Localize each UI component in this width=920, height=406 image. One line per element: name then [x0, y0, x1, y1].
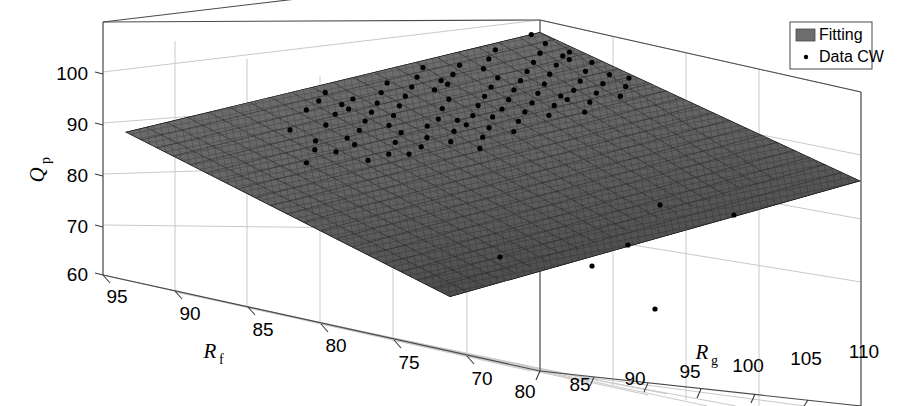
data-point	[470, 113, 475, 118]
data-point	[554, 62, 559, 67]
data-point	[626, 75, 631, 80]
data-point	[487, 125, 492, 130]
data-point	[419, 144, 424, 149]
data-point	[481, 66, 486, 71]
data-point	[543, 41, 548, 46]
data-point	[529, 100, 534, 105]
data-point	[464, 122, 469, 127]
data-point	[522, 109, 527, 114]
data-point	[420, 65, 425, 70]
data-point	[451, 129, 456, 134]
data-point	[450, 72, 455, 77]
z-tick-4: 60	[67, 264, 88, 285]
data-point	[477, 146, 482, 151]
data-point	[516, 119, 521, 124]
x-axis-title: R g	[695, 340, 718, 368]
data-point	[352, 142, 357, 147]
data-point	[313, 138, 318, 143]
data-point	[386, 151, 391, 156]
y-axis-title-sub: f	[219, 352, 224, 367]
data-point	[560, 53, 565, 58]
data-point	[493, 47, 498, 52]
data-point	[287, 127, 292, 132]
y-axis-title-main: R	[203, 339, 217, 363]
data-point-outlier	[497, 254, 502, 259]
data-point	[446, 97, 451, 102]
data-point	[567, 49, 572, 54]
y-tick-2: 85	[252, 319, 273, 340]
data-point	[397, 103, 402, 108]
legend-label-data-cw: Data CW	[819, 48, 885, 65]
data-point	[489, 84, 494, 89]
data-point	[363, 119, 368, 124]
data-point	[480, 135, 485, 140]
x-axis-title-main: R	[695, 340, 709, 364]
x-tick-1: 85	[569, 374, 590, 395]
data-point	[594, 90, 599, 95]
z-axis-tick-labels: 100 90 80 70 60	[56, 63, 88, 285]
data-point	[457, 63, 462, 68]
data-point	[587, 100, 592, 105]
y-tick-1: 90	[179, 303, 200, 324]
data-point-outlier	[731, 212, 736, 217]
data-point	[425, 123, 430, 128]
x-tick-4: 100	[732, 355, 764, 376]
data-point	[567, 57, 572, 62]
data-point	[304, 107, 309, 112]
z-tick-1: 90	[67, 114, 88, 135]
data-point	[323, 122, 328, 127]
data-point	[511, 129, 516, 134]
z-axis-title: Q p	[25, 157, 53, 183]
data-point	[316, 98, 321, 103]
data-point	[323, 90, 328, 95]
data-point	[565, 97, 570, 102]
legend[interactable]: Fitting Data CW	[790, 22, 885, 69]
data-point	[547, 72, 552, 77]
z-tick-3: 70	[67, 216, 88, 237]
data-point	[546, 113, 551, 118]
y-tick-3: 80	[325, 335, 346, 356]
data-point	[393, 140, 398, 145]
z-axis-title-sub: p	[38, 157, 53, 164]
data-point	[424, 135, 429, 140]
data-point	[531, 60, 536, 65]
data-point	[386, 123, 391, 128]
data-point-outlier	[652, 306, 657, 311]
data-point	[482, 94, 487, 99]
data-point	[415, 75, 420, 80]
data-point	[357, 128, 362, 133]
y-axis-tick-labels: 95 90 85 80 75 70	[106, 286, 492, 389]
data-point	[436, 117, 441, 122]
data-point	[618, 94, 623, 99]
x-tick-3: 95	[679, 361, 700, 382]
y-axis-title: R f	[203, 339, 224, 367]
data-point	[537, 51, 542, 56]
data-point	[518, 78, 523, 83]
fitting-surface	[125, 32, 861, 297]
data-point	[583, 69, 588, 74]
data-point	[506, 97, 511, 102]
data-point	[439, 78, 444, 83]
data-point	[445, 82, 450, 87]
data-point	[524, 69, 529, 74]
data-point	[552, 103, 557, 108]
data-point	[399, 130, 404, 135]
data-point	[391, 113, 396, 118]
data-point	[589, 60, 594, 65]
data-point	[490, 114, 495, 119]
y-tick-5: 70	[471, 368, 492, 389]
data-point	[600, 81, 605, 86]
legend-dot-marker-icon	[804, 55, 808, 59]
x-axis-title-sub: g	[711, 353, 718, 368]
data-point	[406, 152, 411, 157]
z-tick-2: 80	[67, 165, 88, 186]
data-point	[495, 75, 500, 80]
data-point	[339, 102, 344, 107]
x-tick-5: 105	[790, 348, 822, 369]
data-point	[333, 112, 338, 117]
data-point	[535, 91, 540, 96]
data-point	[369, 110, 374, 115]
data-point	[448, 139, 453, 144]
data-point	[582, 110, 587, 115]
data-point	[542, 81, 547, 86]
